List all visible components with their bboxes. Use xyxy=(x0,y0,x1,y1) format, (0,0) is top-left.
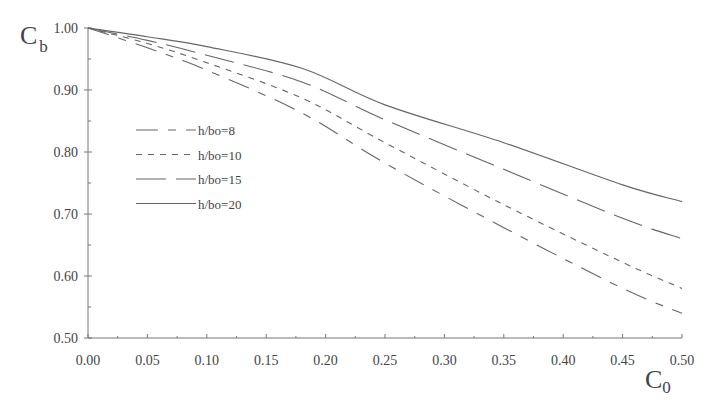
x-tick-label: 0.40 xyxy=(551,353,576,368)
x-tick-label: 0.25 xyxy=(373,353,398,368)
legend-label: h/bo=15 xyxy=(198,172,241,187)
x-tick-label: 0.20 xyxy=(313,353,338,368)
series-lines xyxy=(88,28,682,313)
y-tick-label: 0.90 xyxy=(54,83,79,98)
series-line-h-bo-15 xyxy=(88,28,682,239)
y-tick-label: 1.00 xyxy=(54,21,79,36)
x-tick-label: 0.45 xyxy=(610,353,635,368)
axes: 0.000.050.100.150.200.250.300.350.400.45… xyxy=(54,21,695,368)
chart: 0.000.050.100.150.200.250.300.350.400.45… xyxy=(0,0,719,417)
y-tick-label: 0.50 xyxy=(54,331,79,346)
x-tick-label: 0.10 xyxy=(195,353,220,368)
series-line-h-bo-20 xyxy=(88,28,682,202)
legend-label: h/bo=10 xyxy=(198,148,241,163)
y-tick-label: 0.70 xyxy=(54,207,79,222)
y-tick-label: 0.80 xyxy=(54,145,79,160)
legend-label: h/bo=8 xyxy=(198,123,235,138)
x-tick-label: 0.30 xyxy=(432,353,457,368)
y-tick-label: 0.60 xyxy=(54,269,79,284)
x-tick-label: 0.15 xyxy=(254,353,279,368)
legend: h/bo=8h/bo=10h/bo=15h/bo=20 xyxy=(136,123,241,212)
x-tick-label: 0.00 xyxy=(76,353,101,368)
x-tick-label: 0.35 xyxy=(492,353,517,368)
legend-label: h/bo=20 xyxy=(198,197,241,212)
x-tick-label: 0.05 xyxy=(135,353,160,368)
y-axis-title: Cb xyxy=(20,21,48,56)
x-tick-label: 0.50 xyxy=(670,353,695,368)
series-line-h-bo-8 xyxy=(88,28,682,313)
x-axis-title: C0 xyxy=(645,365,671,397)
series-line-h-bo-10 xyxy=(88,28,682,288)
